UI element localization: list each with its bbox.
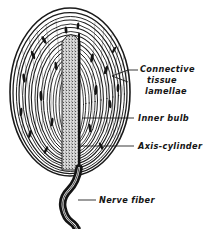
label-connective-tissue-lamellae-line1: Connective (140, 64, 195, 74)
label-inner-bulb: Inner bulb (138, 113, 189, 123)
label-connective-tissue-lamellae-line2: tissue (147, 75, 177, 85)
figure-canvas: Connective tissue lamellae Inner bulb Ax… (0, 0, 220, 229)
pacinian-corpuscle-figure: Connective tissue lamellae Inner bulb Ax… (0, 0, 220, 229)
label-axis-cylinder: Axis-cylinder (137, 141, 203, 151)
inner-bulb (62, 35, 80, 171)
label-connective-tissue-lamellae-line3: lamellae (145, 86, 187, 96)
corpuscle-body (10, 8, 130, 176)
label-nerve-fiber: Nerve fiber (99, 195, 155, 205)
